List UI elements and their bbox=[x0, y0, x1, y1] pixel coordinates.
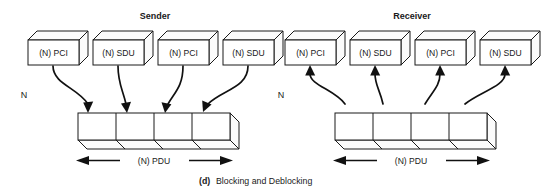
blocking-deblocking-figure: Sender (N) PCI (N) SDU (N) PCI (N) SDU bbox=[0, 0, 558, 189]
sender-flow-arrow-3 bbox=[162, 66, 184, 113]
sender-pdu-bar bbox=[78, 113, 239, 149]
sender-flow-arrow-1 bbox=[53, 66, 93, 113]
receiver-pdu-span: (N) PDU bbox=[333, 156, 490, 166]
receiver-pdu-bar bbox=[335, 113, 496, 149]
sender-unit-box-4: (N) SDU bbox=[223, 31, 283, 65]
sender-title: Sender bbox=[140, 11, 171, 21]
receiver-flow-arrow-2 bbox=[370, 65, 383, 104]
receiver-flow-arrow-1 bbox=[305, 65, 345, 104]
sender-unit-box-1: (N) PCI bbox=[28, 31, 88, 65]
caption-text: Blocking and Deblocking bbox=[216, 176, 312, 186]
diagram-canvas: Sender (N) PCI (N) SDU (N) PCI (N) SDU bbox=[0, 0, 558, 189]
receiver-unit-label-2: (N) SDU bbox=[359, 48, 391, 58]
receiver-unit-label-3: (N) PCI bbox=[426, 48, 455, 58]
receiver-unit-box-2: (N) SDU bbox=[350, 31, 410, 65]
receiver-title: Receiver bbox=[393, 11, 431, 21]
sender-unit-box-3: (N) PCI bbox=[158, 31, 218, 65]
sender-pdu-label: (N) PDU bbox=[138, 156, 170, 166]
receiver-unit-label-1: (N) PCI bbox=[296, 48, 325, 58]
receiver-unit-box-1: (N) PCI bbox=[285, 31, 345, 65]
receiver-unit-box-4: (N) SDU bbox=[480, 31, 540, 65]
sender-flow-arrow-4 bbox=[202, 66, 248, 112]
sender-unit-label-1: (N) PCI bbox=[39, 48, 68, 58]
sender-pdu-span: (N) PDU bbox=[76, 156, 233, 166]
sender-unit-label-3: (N) PCI bbox=[169, 48, 198, 58]
sender-unit-label-2: (N) SDU bbox=[102, 48, 134, 58]
receiver-flow-arrow-4 bbox=[465, 65, 510, 104]
sender-layer-label: N bbox=[21, 90, 28, 100]
receiver-unit-label-4: (N) SDU bbox=[489, 48, 521, 58]
receiver-pdu-label: (N) PDU bbox=[395, 156, 427, 166]
figure-caption: (d) Blocking and Deblocking bbox=[199, 176, 312, 186]
sender-unit-box-2: (N) SDU bbox=[93, 31, 153, 65]
receiver-layer-label: N bbox=[278, 90, 285, 100]
receiver-flow-arrow-3 bbox=[425, 65, 445, 104]
sender-flow-arrow-2 bbox=[118, 66, 131, 113]
sender-unit-label-4: (N) SDU bbox=[232, 48, 264, 58]
receiver-unit-box-3: (N) PCI bbox=[415, 31, 475, 65]
caption-prefix: (d) bbox=[199, 176, 210, 186]
